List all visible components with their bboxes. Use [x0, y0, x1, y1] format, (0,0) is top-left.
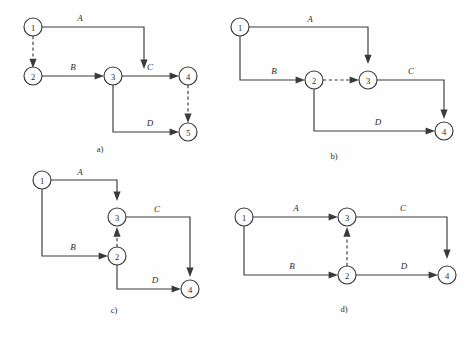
figure-root: A B C D 1: [0, 0, 476, 338]
edge-b-B-label: B: [271, 66, 277, 76]
edge-b-A-path: [249, 27, 368, 56]
edge-b-A-arrowhead: [364, 55, 371, 64]
edge-b-C-path: [377, 80, 444, 111]
edge-c-B-arrowhead: [99, 252, 108, 259]
node-d-1[interactable]: 1: [235, 208, 253, 226]
edge-b-A-label: A: [306, 14, 313, 24]
edge-d-B-label: B: [289, 261, 295, 271]
node-a-3[interactable]: 3: [104, 67, 122, 85]
edge-c-A-path: [51, 180, 117, 193]
edge-c-B-label: B: [70, 242, 76, 252]
node-a-5[interactable]: 5: [179, 123, 197, 141]
edge-c-D-label: D: [151, 275, 159, 285]
node-c-2[interactable]: 2: [108, 247, 126, 265]
node-c-1[interactable]: 1: [33, 171, 51, 189]
node-a-1[interactable]: 1: [24, 18, 42, 36]
edge-a-D-arrowhead: [170, 128, 179, 135]
node-a-2-label: 2: [31, 72, 35, 82]
node-b-2-label: 2: [312, 76, 316, 86]
edge-c-D-arrowhead: [172, 285, 181, 292]
panel-a: A B C D 1: [24, 13, 197, 154]
edge-c-D-path: [117, 265, 174, 289]
edge-a-A-path: [42, 27, 144, 60]
node-c-2-label: 2: [115, 252, 119, 262]
edge-b-B-path: [240, 36, 298, 80]
panel-b: A B C D 1 2: [231, 14, 453, 161]
edge-b-C-label: C: [408, 66, 415, 76]
node-b-3[interactable]: 3: [359, 71, 377, 89]
node-d-4[interactable]: 4: [438, 266, 456, 284]
node-b-1-label: 1: [238, 23, 242, 33]
node-d-2[interactable]: 2: [338, 266, 356, 284]
node-b-1[interactable]: 1: [231, 18, 249, 36]
node-b-4[interactable]: 4: [435, 122, 453, 140]
edge-d-B-path: [244, 226, 331, 275]
node-c-1-label: 1: [40, 176, 44, 186]
edge-c-A-label: A: [76, 167, 83, 177]
edge-b-dummy23-arrowhead: [350, 76, 359, 83]
panel-c: A B C D 1 3: [33, 167, 199, 315]
node-c-3[interactable]: 3: [108, 208, 126, 226]
edge-a-B-label: B: [70, 62, 76, 72]
edge-c-A-arrowhead: [113, 192, 120, 201]
network-diagram-canvas: A B C D 1: [0, 0, 476, 338]
node-d-2-label: 2: [345, 271, 349, 281]
edge-a-B-arrowhead: [95, 72, 104, 79]
edge-b-D-path: [314, 89, 428, 131]
edge-d-A-arrowhead: [329, 213, 338, 220]
edge-b-B-arrowhead: [296, 76, 305, 83]
node-a-1-label: 1: [31, 23, 35, 33]
edge-a-A-label: A: [76, 13, 83, 23]
edge-c-C-arrowhead: [186, 268, 193, 277]
node-d-1-label: 1: [242, 213, 246, 223]
node-c-3-label: 3: [115, 213, 119, 223]
edge-c-dummy23-arrowhead: [113, 227, 120, 237]
node-b-3-label: 3: [366, 76, 370, 86]
edge-a-D-path: [113, 85, 172, 132]
node-b-2[interactable]: 2: [305, 71, 323, 89]
node-a-3-label: 3: [111, 72, 115, 82]
edge-a-dummy45-arrowhead: [184, 113, 191, 123]
edge-b-C-arrowhead: [440, 110, 447, 119]
edge-a-C-arrowhead: [170, 72, 179, 79]
node-c-4[interactable]: 4: [181, 280, 199, 298]
edge-d-D-arrowhead: [429, 271, 438, 278]
edge-b-D-label: D: [374, 117, 382, 127]
edge-d-A-label: A: [292, 203, 299, 213]
node-a-2[interactable]: 2: [24, 67, 42, 85]
node-d-3-label: 3: [345, 213, 349, 223]
edge-d-dummy23-arrowhead: [343, 227, 350, 237]
panel-d-caption: d): [340, 304, 347, 314]
edge-d-D-label: D: [400, 261, 408, 271]
panel-d: A B C D 1 3: [235, 203, 456, 314]
node-a-4[interactable]: 4: [179, 67, 197, 85]
node-d-3[interactable]: 3: [338, 208, 356, 226]
panel-c-caption: c): [111, 305, 118, 315]
edge-d-C-label: C: [400, 203, 407, 213]
edge-d-C-path: [356, 217, 447, 251]
edge-a-C-label: C: [147, 62, 154, 72]
edge-a-D-label: D: [146, 118, 154, 128]
edge-d-B-arrowhead: [329, 271, 338, 278]
edge-d-C-arrowhead: [443, 250, 450, 259]
node-a-5-label: 5: [186, 128, 190, 138]
edge-c-C-label: C: [154, 204, 161, 214]
edge-c-C-path: [126, 217, 190, 269]
panel-a-caption: a): [97, 144, 104, 154]
edge-b-D-arrowhead: [426, 127, 435, 134]
panel-b-caption: b): [330, 151, 337, 161]
